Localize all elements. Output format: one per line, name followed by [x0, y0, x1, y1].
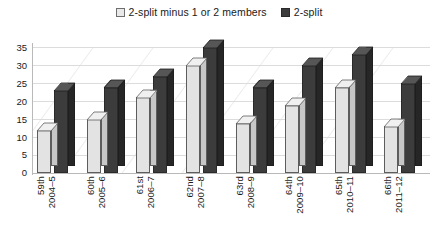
- y-tick-20: 20: [16, 97, 27, 107]
- bar-light: [285, 105, 299, 173]
- bar-side-face: [250, 116, 257, 166]
- bar-front-face: [186, 65, 200, 173]
- bar-light: [384, 126, 398, 173]
- legend-label-light: 2-split minus 1 or 2 members: [129, 6, 267, 18]
- bar-side-face: [217, 40, 224, 166]
- y-axis: 35 30 25 20 15 10 5 0: [0, 40, 31, 180]
- y-tick-25: 25: [16, 79, 27, 89]
- bar-group: [331, 47, 381, 173]
- bar-front-face: [87, 119, 101, 173]
- x-axis-label-line2: 2004–5: [46, 176, 57, 208]
- x-axis-label-line1: 60th: [85, 176, 96, 195]
- bar-front-face: [136, 97, 150, 173]
- bar-side-face: [415, 76, 422, 166]
- bar-front-face: [37, 130, 51, 173]
- bar-group: [33, 47, 83, 173]
- x-axis-label-line2: 2005–6: [96, 176, 107, 208]
- x-axis-label-line2: 2010–11: [344, 176, 355, 213]
- x-axis-label-line1: 62nd: [184, 176, 195, 198]
- bar-group: [83, 47, 133, 173]
- bar-side-face: [267, 80, 274, 166]
- x-axis-rule: [33, 173, 430, 174]
- x-axis-label-line2: 2007–8: [195, 176, 206, 208]
- x-axis-label-line1: 61st: [134, 176, 145, 194]
- x-axis: 59th2004–560th2005–661st2006–762nd2007–8…: [33, 176, 430, 238]
- bar-side-face: [299, 98, 306, 166]
- y-tick-35: 35: [16, 43, 27, 53]
- bar-group: [380, 47, 430, 173]
- x-axis-label-line1: 59th: [35, 176, 46, 195]
- x-axis-label-line2: 2011–12: [393, 176, 404, 213]
- bar-light: [37, 130, 51, 173]
- y-tick-0: 0: [22, 168, 27, 178]
- x-axis-label-line2: 2006–7: [145, 176, 156, 208]
- legend-label-dark: 2-split: [294, 6, 323, 18]
- legend-swatch-dark: [281, 8, 290, 17]
- bar-front-face: [384, 126, 398, 173]
- bars-layer: [33, 47, 430, 173]
- y-tick-10: 10: [16, 133, 27, 143]
- chart-legend: 2-split minus 1 or 2 members 2-split: [0, 6, 438, 18]
- x-axis-label-line2: 2008–9: [245, 176, 256, 208]
- bar-side-face: [200, 58, 207, 166]
- bar-side-face: [167, 69, 174, 166]
- bar-group: [232, 47, 282, 173]
- legend-swatch-light: [116, 8, 125, 17]
- bar-group: [281, 47, 331, 173]
- bar-light: [186, 65, 200, 173]
- bar-group: [182, 47, 232, 173]
- bar-group: [132, 47, 182, 173]
- bar-side-face: [150, 90, 157, 166]
- bar-side-face: [398, 119, 405, 166]
- bar-side-face: [118, 80, 125, 166]
- bar-side-face: [101, 112, 108, 166]
- bar-light: [136, 97, 150, 173]
- bar-front-face: [285, 105, 299, 173]
- bar-side-face: [366, 47, 373, 166]
- legend-entry-dark: 2-split: [281, 6, 323, 18]
- bar-side-face: [349, 80, 356, 166]
- bar-front-face: [335, 87, 349, 173]
- x-axis-label-line2: 2009–10: [294, 176, 305, 214]
- bar-light: [236, 123, 250, 173]
- legend-entry-light: 2-split minus 1 or 2 members: [116, 6, 267, 18]
- bar-chart: 2-split minus 1 or 2 members 2-split 35 …: [0, 0, 438, 238]
- y-tick-30: 30: [16, 61, 27, 71]
- bar-front-face: [236, 123, 250, 173]
- x-axis-label: 66th2011–12: [382, 176, 438, 236]
- x-axis-label-line1: 63rd: [234, 176, 245, 195]
- bar-side-face: [316, 58, 323, 166]
- x-axis-label-line1: 65th: [333, 176, 344, 195]
- y-tick-5: 5: [22, 150, 27, 160]
- y-tick-15: 15: [16, 115, 27, 125]
- bar-light: [87, 119, 101, 173]
- bar-side-face: [51, 123, 58, 166]
- x-axis-label-line1: 64th: [283, 176, 294, 195]
- bar-light: [335, 87, 349, 173]
- bar-side-face: [68, 83, 75, 166]
- x-axis-label-line1: 66th: [382, 176, 393, 195]
